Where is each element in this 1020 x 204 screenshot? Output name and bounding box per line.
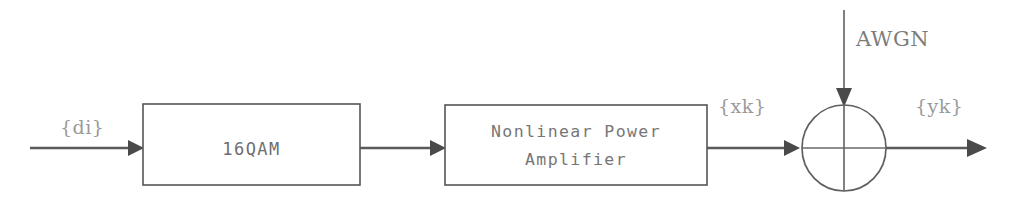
wire-adder-to-output [886,139,987,157]
signal-label-di: {di} [60,116,104,138]
summing-junction[interactable] [802,105,886,191]
wire-input-to-modulator [30,140,144,156]
wire-amplifier-to-adder [707,140,800,156]
block-amplifier[interactable]: Nonlinear Power Amplifier [445,105,707,185]
signal-label-yk: {yk} [915,95,963,117]
block-modulator-label: 16QAM [222,139,281,159]
diagram-canvas: 16QAM Nonlinear Power Amplifier {xk} AWG… [0,0,1020,204]
block-diagram: 16QAM Nonlinear Power Amplifier {xk} AWG… [0,0,1020,204]
wire-modulator-to-amplifier [360,140,446,156]
block-amplifier-label-line1: Nonlinear Power [491,122,661,141]
signal-label-xk: {xk} [718,95,766,117]
block-modulator[interactable]: 16QAM [143,104,360,185]
block-amplifier-label-line2: Amplifier [525,150,627,169]
wire-awgn-to-adder [836,10,852,107]
signal-label-awgn: AWGN [855,27,929,51]
